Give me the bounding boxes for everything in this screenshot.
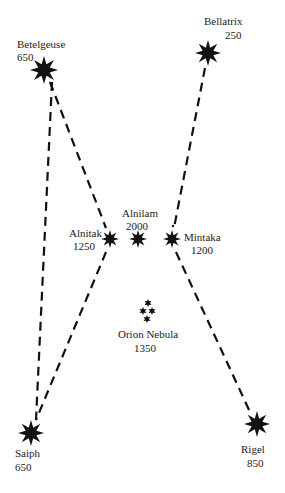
star-icon [244,411,270,437]
star-distance: 850 [247,457,264,469]
star-icon [195,40,221,66]
nebula-distance: 1350 [134,342,157,354]
star-betelgeuse: Betelgeuse 650 [17,38,65,84]
star-distance: 250 [225,29,242,41]
nebula-star-icon [145,299,152,307]
star-name: Mintaka [184,231,221,243]
star-icon [129,230,147,248]
star-name: Alnitak [69,227,102,239]
star-icon [163,230,181,248]
line-alnitak-saiph [36,252,106,420]
star-distance: 1200 [191,244,214,256]
star-distance: 1250 [73,240,96,252]
star-distance: 650 [17,51,34,63]
nebula-star-icon [140,307,147,315]
nebula-name: Orion Nebula [118,328,178,340]
star-rigel: Rigel 850 [241,411,270,469]
dot-marker [104,225,106,227]
star-name: Saiph [15,447,41,459]
star-saiph: Saiph 650 [15,420,44,473]
star-alnilam: Alnilam 2000 [122,207,158,248]
line-bellatrix-mintaka [174,68,205,228]
star-name: Rigel [241,443,265,455]
orion-nebula: Orion Nebula 1350 [118,299,178,354]
star-name: Bellatrix [204,15,243,27]
orion-diagram: Betelgeuse 650 Bellatrix 250 Alnitak 125… [0,0,285,493]
nebula-star-icon [144,315,151,323]
star-icon [18,420,44,446]
line-betelgeuse-saiph [36,82,52,420]
star-name: Alnilam [122,207,158,219]
star-bellatrix: Bellatrix 250 [195,15,243,66]
star-distance: 650 [15,461,32,473]
nebula-star-icon [149,307,156,315]
star-mintaka: Mintaka 1200 [163,230,221,256]
star-alnitak: Alnitak 1250 [69,227,119,252]
star-icon [101,230,119,248]
star-name: Betelgeuse [17,38,65,50]
line-betelgeuse-alnitak [50,82,106,228]
star-distance: 2000 [126,220,149,232]
star-icon [30,56,58,84]
dot-marker [172,225,174,227]
line-mintaka-rigel [176,252,250,412]
